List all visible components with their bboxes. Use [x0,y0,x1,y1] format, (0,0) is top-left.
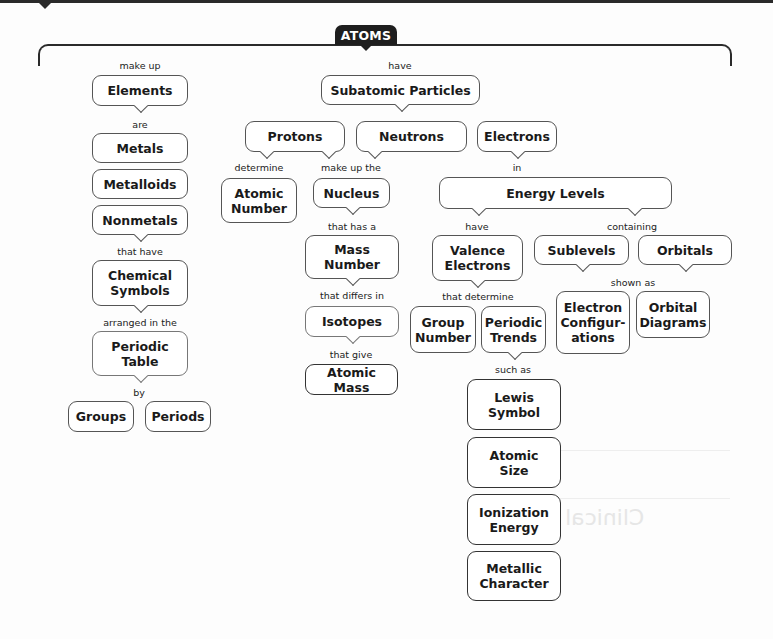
node-periods: Periods [145,401,211,432]
node-label: Chemical Symbols [108,268,172,298]
node-label: Periods [151,409,204,424]
callout-pointer-icon [472,201,486,215]
node-label: Ionization Energy [472,505,556,535]
node-orbital-diagrams: Orbital Diagrams [636,291,710,338]
callout-pointer-icon [471,273,485,287]
node-label: Nucleus [324,186,380,201]
link-that-has-a: that has a [328,221,376,232]
node-label: Atomic Number [228,186,290,216]
bleed-through-line [560,498,730,499]
top-pointer-icon [38,2,52,9]
node-orbitals: Orbitals [638,235,732,265]
callout-pointer-icon [134,227,148,241]
callout-pointer-icon [260,144,274,158]
node-sublevels: Sublevels [534,235,629,265]
link-that-give: that give [330,349,372,360]
node-label: Metallic Character [472,561,556,591]
node-chemical-symbols: Chemical Symbols [92,260,188,306]
node-mass-number: Mass Number [305,235,399,279]
node-label: Valence Electrons [443,243,512,273]
callout-pointer-icon [346,200,360,214]
node-subatomic-particles: Subatomic Particles [321,75,480,105]
callout-pointer-icon [628,201,642,215]
node-isotopes: Isotopes [305,306,399,337]
node-elements: Elements [92,75,188,106]
node-groups: Groups [68,401,134,432]
link-that-differs-in: that differs in [320,290,384,301]
node-atomic-size: Atomic Size [467,437,561,488]
node-periodic-table: Periodic Table [92,331,188,376]
top-border-bar [0,0,773,3]
callout-pointer-icon [134,98,148,112]
link-have-valence: have [465,221,488,232]
node-label: Energy Levels [506,186,604,201]
node-protons: Protons [245,121,345,152]
node-label: Metalloids [103,177,176,192]
callout-pointer-icon [395,97,409,111]
node-label: Sublevels [548,243,616,258]
node-metalloids: Metalloids [92,169,188,199]
node-ionization-energy: Ionization Energy [467,494,561,545]
link-shown-as: shown as [611,277,655,288]
link-make-up-the: make up the [321,162,381,173]
node-nucleus: Nucleus [313,178,390,208]
node-label: Electrons [484,129,550,144]
node-neutrons: Neutrons [356,121,467,152]
node-label: Elements [107,83,172,98]
callout-pointer-icon [346,271,360,285]
callout-pointer-icon [508,345,522,359]
callout-pointer-icon [576,257,590,271]
node-label: Groups [76,409,126,424]
node-label: Periodic Trends [485,315,542,345]
node-group-number: Group Number [410,306,476,353]
node-label: Neutrons [379,129,444,144]
node-atomic-number: Atomic Number [221,178,297,223]
node-periodic-trends: Periodic Trends [481,306,546,353]
node-label: Metals [116,141,163,156]
node-atomic-mass: Atomic Mass [305,364,398,395]
link-that-determine: that determine [442,291,513,302]
callout-pointer-icon [368,144,382,158]
node-label: Lewis Symbol [488,390,540,420]
callout-pointer-icon [322,144,336,158]
link-are: are [132,119,147,130]
node-label: Mass Number [324,242,380,272]
node-electron-configurations: Electron Configur-ations [556,291,630,354]
node-label: Atomic Size [490,448,539,478]
callout-pointer-icon [679,257,693,271]
root-node-atoms: ATOMS [335,25,397,45]
link-make-up: make up [119,60,160,71]
node-label: Orbital Diagrams [639,300,706,330]
node-metals: Metals [92,133,188,163]
node-label: Protons [268,129,323,144]
node-label: Subatomic Particles [330,83,470,98]
callout-pointer-icon [346,329,360,343]
callout-pointer-icon [511,144,525,158]
node-label: Atomic Mass [309,365,394,395]
callout-pointer-icon [134,298,148,312]
link-containing: containing [607,221,657,232]
node-label: Electron Configur-ations [560,300,625,345]
link-have: have [388,60,411,71]
link-determine: determine [235,162,284,173]
node-label: Nonmetals [102,213,178,228]
node-nonmetals: Nonmetals [92,205,188,235]
node-energy-levels: Energy Levels [439,177,672,209]
node-label: Isotopes [322,314,382,329]
link-arranged-in-the: arranged in the [103,317,177,328]
bleed-through-line [560,450,730,451]
bleed-through-text: Clinical [565,505,644,530]
node-electrons: Electrons [477,121,557,152]
node-lewis-symbol: Lewis Symbol [467,379,561,430]
link-that-have: that have [117,246,163,257]
node-label: Orbitals [657,243,713,258]
node-label: Group Number [415,315,471,345]
link-in: in [513,162,522,173]
node-metallic-character: Metallic Character [467,551,561,601]
callout-pointer-icon [134,368,148,382]
node-valence-electrons: Valence Electrons [432,235,523,281]
link-such-as: such as [495,364,531,375]
link-by: by [133,387,145,398]
node-label: Periodic Table [111,339,168,369]
